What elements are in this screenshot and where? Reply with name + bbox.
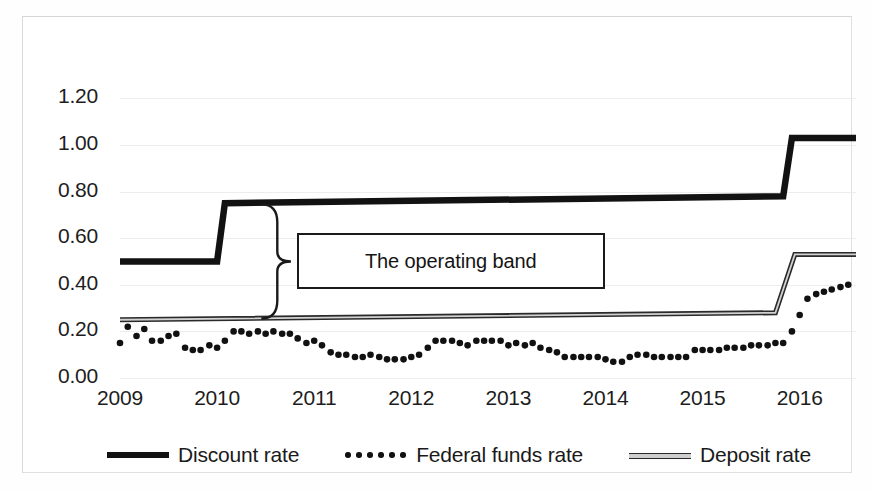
data-point bbox=[780, 340, 787, 347]
data-point bbox=[619, 358, 626, 365]
data-point bbox=[610, 358, 617, 365]
data-point bbox=[440, 337, 447, 344]
legend-dot bbox=[345, 452, 351, 458]
legend-dot bbox=[400, 452, 406, 458]
legend-label: Deposit rate bbox=[700, 443, 811, 467]
data-point bbox=[246, 330, 253, 337]
chart-page: The operating band 0.000.200.400.600.801… bbox=[0, 0, 873, 491]
data-point bbox=[214, 344, 221, 351]
data-point bbox=[416, 351, 423, 358]
data-point bbox=[724, 344, 731, 351]
data-point bbox=[408, 354, 415, 361]
data-point bbox=[804, 295, 811, 302]
data-point bbox=[238, 328, 245, 335]
data-point bbox=[473, 337, 480, 344]
data-point bbox=[570, 354, 577, 361]
data-point bbox=[813, 291, 820, 298]
gridline bbox=[120, 378, 856, 379]
data-point bbox=[578, 354, 585, 361]
data-point bbox=[376, 354, 383, 361]
data-point bbox=[230, 328, 237, 335]
y-axis-tick-label: 0.80 bbox=[58, 178, 98, 202]
data-point bbox=[764, 342, 771, 349]
y-axis-tick-label: 0.40 bbox=[58, 271, 98, 295]
chart-frame: The operating band 0.000.200.400.600.801… bbox=[22, 16, 852, 473]
data-point bbox=[464, 342, 471, 349]
plot-area: The operating band bbox=[120, 75, 856, 378]
data-point bbox=[522, 342, 529, 349]
operating-band-annotation: The operating band bbox=[297, 233, 605, 288]
y-axis-tick-label: 1.00 bbox=[58, 131, 98, 155]
data-point bbox=[303, 340, 310, 347]
data-point bbox=[141, 326, 148, 333]
data-point bbox=[554, 349, 561, 356]
data-point bbox=[327, 349, 334, 356]
legend-dot bbox=[389, 452, 395, 458]
data-point bbox=[731, 344, 738, 351]
data-point bbox=[796, 312, 803, 319]
data-point bbox=[343, 351, 350, 358]
data-point bbox=[699, 347, 706, 354]
data-point bbox=[675, 354, 682, 361]
data-point bbox=[294, 335, 301, 342]
data-point bbox=[287, 330, 294, 337]
data-point bbox=[197, 347, 204, 354]
x-axis-tick-label: 2014 bbox=[583, 386, 629, 410]
data-point bbox=[279, 330, 286, 337]
data-point bbox=[513, 340, 520, 347]
data-point bbox=[529, 340, 536, 347]
data-point bbox=[772, 340, 779, 347]
data-point bbox=[602, 356, 609, 363]
data-point bbox=[643, 351, 650, 358]
data-point bbox=[707, 347, 714, 354]
data-point bbox=[124, 323, 131, 330]
operating-band-brace bbox=[261, 204, 291, 318]
data-point bbox=[659, 354, 666, 361]
data-point bbox=[319, 342, 326, 349]
data-point bbox=[190, 347, 197, 354]
data-point bbox=[651, 354, 658, 361]
legend-label: Discount rate bbox=[178, 443, 299, 467]
data-point bbox=[586, 354, 593, 361]
data-point bbox=[828, 286, 835, 293]
data-point bbox=[367, 351, 374, 358]
y-axis-tick-label: 0.00 bbox=[58, 364, 98, 388]
legend-label: Federal funds rate bbox=[416, 443, 583, 467]
data-point bbox=[133, 333, 140, 340]
data-point bbox=[789, 328, 796, 335]
data-point bbox=[173, 330, 180, 337]
data-point bbox=[756, 342, 763, 349]
data-point bbox=[837, 284, 844, 291]
thin-line-swatch bbox=[629, 448, 691, 462]
data-point bbox=[546, 347, 553, 354]
data-point bbox=[449, 337, 456, 344]
thick-line-swatch bbox=[107, 448, 169, 462]
data-point bbox=[262, 330, 269, 337]
data-point bbox=[683, 354, 690, 361]
x-axis-tick-label: 2012 bbox=[388, 386, 434, 410]
data-point bbox=[182, 344, 189, 351]
data-point bbox=[821, 288, 828, 295]
x-axis-tick-label: 2015 bbox=[680, 386, 726, 410]
x-axis-tick-label: 2011 bbox=[292, 386, 336, 410]
thick-line-glyph bbox=[107, 452, 169, 458]
data-point bbox=[634, 351, 641, 358]
data-point bbox=[692, 347, 699, 354]
data-point bbox=[457, 340, 464, 347]
data-point bbox=[384, 356, 391, 363]
data-point bbox=[432, 337, 439, 344]
legend-dot bbox=[367, 452, 373, 458]
data-point bbox=[255, 328, 262, 335]
data-point bbox=[335, 351, 342, 358]
dotted-line-swatch bbox=[345, 448, 407, 462]
y-axis-tick-label: 1.20 bbox=[58, 84, 98, 108]
x-axis-tick-label: 2016 bbox=[777, 386, 823, 410]
data-point bbox=[716, 347, 723, 354]
data-point bbox=[561, 354, 568, 361]
y-axis-tick-label: 0.60 bbox=[58, 224, 98, 248]
data-point bbox=[594, 354, 601, 361]
data-point bbox=[165, 333, 172, 340]
legend-item: Federal funds rate bbox=[345, 443, 583, 467]
y-axis-tick-label: 0.20 bbox=[58, 317, 98, 341]
legend-item: Discount rate bbox=[107, 443, 299, 467]
